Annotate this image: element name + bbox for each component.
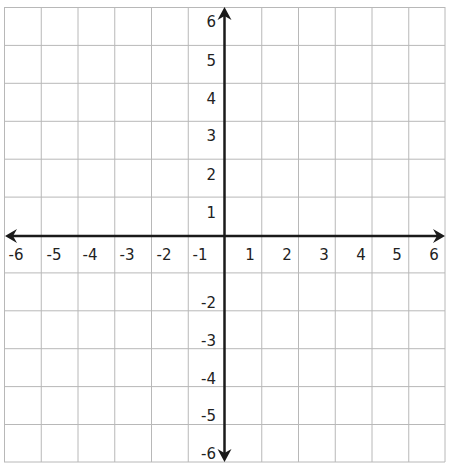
x-tick-label: 4 [356,246,366,264]
x-tick-label: -1 [193,246,208,264]
y-tick-label: -5 [201,407,216,425]
x-tick-label: -5 [47,246,62,264]
x-tick-label: -2 [157,246,172,264]
y-tick-label: -3 [201,332,216,350]
x-tick-label: 1 [245,246,255,264]
y-tick-label: 6 [206,13,216,31]
x-tick-label: -3 [120,246,135,264]
y-axis [218,7,232,462]
y-tick-label: 5 [206,52,216,70]
x-tick-label: 2 [282,246,292,264]
x-tick-label: 3 [319,246,329,264]
y-tick-label: 2 [206,166,216,184]
x-tick-label: -4 [83,246,98,264]
y-tick-label: 3 [206,127,216,145]
coordinate-plane: -6 -5 -4 -3 -2 -1 1 2 3 4 5 6 6 5 4 3 2 … [0,0,450,468]
y-tick-label: -4 [201,370,216,388]
y-tick-label: 4 [206,90,216,108]
y-tick-label: -6 [201,445,216,463]
x-tick-label: 6 [429,246,439,264]
x-tick-label: 5 [392,246,402,264]
y-tick-label: 1 [206,204,216,222]
y-tick-labels: 6 5 4 3 2 1 -2 -3 -4 -5 -6 [201,13,216,463]
y-tick-label: -2 [201,294,216,312]
x-tick-label: -6 [9,246,24,264]
